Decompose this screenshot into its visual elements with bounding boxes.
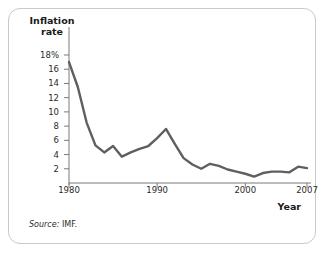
figure-panel: Inflation rate Year 24681012141618% 1980… <box>8 8 316 244</box>
line-chart-plot <box>9 9 317 245</box>
y-tick-marks <box>64 55 69 169</box>
source-value: IMF. <box>62 220 77 229</box>
x-tick-marks <box>69 183 307 188</box>
source-note: Source: IMF. <box>29 220 77 229</box>
source-label: Source: <box>29 220 59 229</box>
inflation-rate-line <box>69 62 307 176</box>
